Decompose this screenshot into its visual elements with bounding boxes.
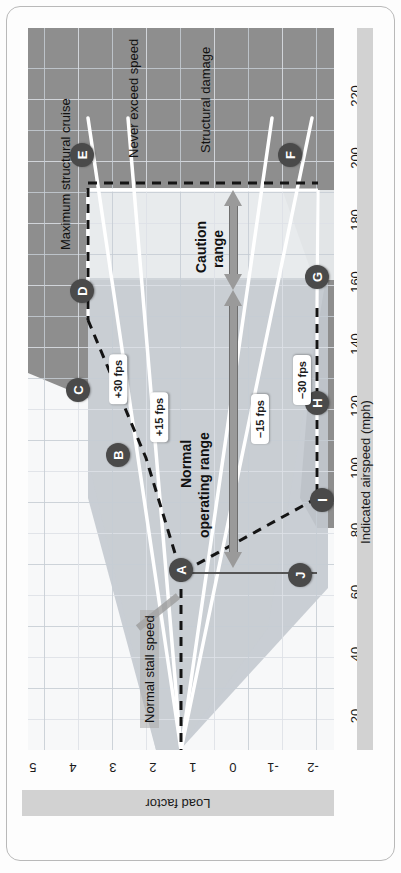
envelope-point-F[interactable]: F bbox=[278, 143, 302, 167]
x-axis-title: Indicated airspeed (mph) bbox=[358, 400, 373, 544]
point-label-I: I bbox=[315, 498, 330, 502]
y-tick-4: 4 bbox=[69, 760, 76, 775]
gust-label-plus-30: +30 fps bbox=[109, 354, 127, 404]
y-axis-title: Load factor bbox=[145, 796, 210, 811]
gust-label-minus-15: –15 fps bbox=[251, 394, 269, 444]
y-tick-5: 5 bbox=[29, 760, 36, 775]
y-tick-3: 3 bbox=[109, 760, 116, 775]
vn-diagram-figure: E F D G C H B I A J +30 fps +15 fps bbox=[0, 0, 401, 873]
envelope-point-J[interactable]: J bbox=[288, 563, 312, 587]
annotation-caution-range-line1: Caution bbox=[193, 221, 209, 273]
envelope-point-A[interactable]: A bbox=[169, 558, 193, 582]
annotation-normal-stall-speed: Normal stall speed bbox=[140, 610, 159, 728]
envelope-point-G[interactable]: G bbox=[305, 265, 329, 289]
annotation-normal-operating-line1: Normal bbox=[178, 440, 194, 488]
y-tick-minus-1: -1 bbox=[267, 760, 279, 775]
gust-label-plus-15: +15 fps bbox=[150, 392, 168, 442]
point-label-J: J bbox=[293, 571, 308, 578]
point-label-C: C bbox=[71, 385, 86, 394]
normal-operating-range-arrow bbox=[224, 290, 242, 568]
y-tick-minus-2: -2 bbox=[307, 760, 319, 775]
gust-label-minus-30: –30 fps bbox=[293, 355, 311, 405]
point-label-B: B bbox=[111, 450, 126, 459]
annotation-never-exceed-speed-line1: Never exceed speed bbox=[126, 39, 141, 158]
point-label-G: G bbox=[310, 272, 325, 282]
envelope-point-I[interactable]: I bbox=[310, 488, 334, 512]
annotation-structural-damage: Structural damage bbox=[198, 47, 213, 153]
annotation-caution-range-line2: range bbox=[210, 230, 226, 268]
annotation-maximum-structural-cruise: Maximum structural cruise bbox=[58, 98, 73, 250]
envelope-point-B[interactable]: B bbox=[106, 443, 130, 467]
y-tick-1: 1 bbox=[189, 760, 196, 775]
y-tick-0: 0 bbox=[229, 760, 236, 775]
envelope-point-C[interactable]: C bbox=[66, 378, 90, 402]
caution-range-arrow bbox=[224, 190, 242, 290]
point-label-E: E bbox=[75, 151, 90, 160]
plot-area: E F D G C H B I A J +30 fps +15 fps bbox=[28, 28, 334, 750]
y-tick-2: 2 bbox=[149, 760, 156, 775]
point-label-F: F bbox=[283, 151, 298, 159]
point-label-A: A bbox=[174, 565, 189, 574]
envelope-point-D[interactable]: D bbox=[70, 279, 94, 303]
annotation-normal-operating-line2: operating range bbox=[196, 432, 212, 538]
x-axis-title-band bbox=[357, 28, 373, 750]
envelope-point-E[interactable]: E bbox=[70, 143, 94, 167]
point-label-D: D bbox=[75, 286, 90, 295]
point-label-H: H bbox=[310, 398, 325, 407]
